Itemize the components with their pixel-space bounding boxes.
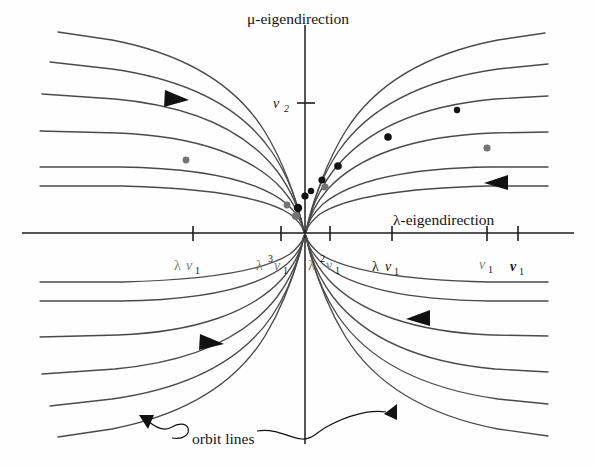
mu-eigendirection-label: μ-eigendirection [247, 10, 349, 27]
orbit-point [334, 162, 342, 170]
orbit-point [318, 176, 325, 183]
orbit-point [483, 144, 490, 151]
x-tick-label-exp: 3 [268, 253, 273, 264]
y-tick-label-sub: 2 [284, 103, 289, 114]
phase-portrait-diagram: μ-eigendirection λ-eigendirection orbit … [0, 0, 596, 468]
x-tick-label-sub: 1 [195, 265, 200, 276]
x-tick-label-var: v [510, 259, 517, 274]
x-tick-label-sub: 1 [488, 264, 493, 275]
orbit-point [308, 188, 314, 194]
orbit-lines-label: orbit lines [192, 430, 254, 447]
orbit-point [454, 107, 460, 113]
orbit-point [284, 202, 291, 209]
x-tick-label-sub: 1 [283, 265, 288, 276]
x-tick-label-var: v [326, 258, 333, 273]
x-tick-label-sub: 1 [394, 266, 399, 277]
y-tick-label-var: v [273, 96, 280, 111]
figure-container: μ-eigendirection λ-eigendirection orbit … [0, 0, 596, 468]
orbit-point [321, 183, 328, 190]
x-tick-label-base: λ [174, 258, 181, 273]
x-tick-label-var: v [274, 258, 281, 273]
x-tick-label-base: λ [372, 259, 379, 274]
orbit-point [183, 157, 190, 164]
x-tick-label-base: λ [308, 258, 315, 273]
x-tick-label-exp: 2 [320, 253, 325, 264]
x-tick-label-sub: 1 [519, 266, 524, 277]
x-tick-label-var: v [186, 258, 193, 273]
orbit-point [301, 192, 308, 199]
x-tick-label-sub: 1 [335, 265, 340, 276]
x-tick-label-base: λ [256, 258, 263, 273]
lambda-eigendirection-label: λ-eigendirection [393, 211, 495, 228]
orbit-point [292, 212, 300, 220]
x-tick-label-var: v [385, 259, 392, 274]
x-tick-label-var: v [479, 257, 486, 272]
canvas-background [0, 0, 596, 468]
orbit-point [384, 133, 392, 141]
orbit-point [294, 204, 302, 212]
